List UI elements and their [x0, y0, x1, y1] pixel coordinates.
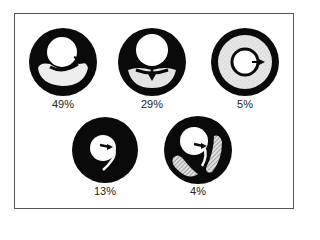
panel-13-percent — [72, 117, 138, 183]
panel-29-percent — [118, 28, 186, 96]
panel-label: 5% — [220, 98, 270, 110]
panel-49-percent — [29, 28, 97, 96]
central-lumen — [136, 34, 168, 66]
panel-label: 29% — [127, 98, 177, 110]
panel-label: 13% — [80, 185, 130, 197]
panel-label: 4% — [173, 185, 223, 197]
central-lumen — [47, 37, 77, 67]
central-lumen — [180, 127, 208, 155]
panel-5-percent — [211, 28, 279, 96]
panel-label: 49% — [38, 98, 88, 110]
panel-4-percent — [164, 116, 232, 184]
